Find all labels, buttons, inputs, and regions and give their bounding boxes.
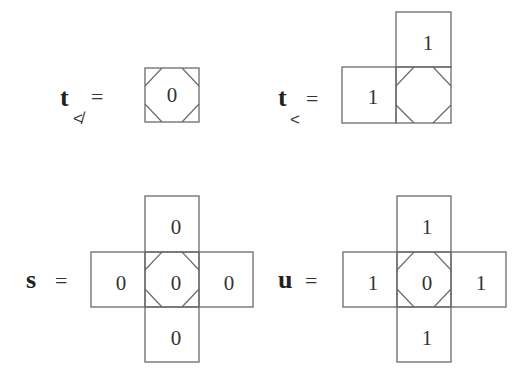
cell-left: 1 bbox=[343, 252, 397, 307]
label-u: u bbox=[278, 265, 292, 294]
cell-top: 1 bbox=[397, 196, 451, 252]
cell-value: 0 bbox=[171, 215, 182, 239]
tile-diagram: t ≮ = 0 t < = 1 1 bbox=[0, 0, 528, 391]
label-t: t bbox=[278, 83, 287, 112]
cell-value: 0 bbox=[422, 271, 433, 295]
cell-right: 0 bbox=[199, 252, 253, 307]
equals-sign: = bbox=[305, 268, 317, 293]
cell-left: 1 bbox=[342, 67, 396, 123]
cell-center-octagon: 0 bbox=[145, 252, 199, 307]
subscript-not-less: ≮ bbox=[73, 109, 86, 128]
cell-bottom: 1 bbox=[397, 307, 451, 362]
label-t: t bbox=[60, 83, 69, 112]
cell-value: 0 bbox=[116, 271, 127, 295]
figure-s: s = 0 0 0 0 0 bbox=[26, 196, 253, 362]
cell-right: 1 bbox=[451, 252, 506, 307]
cell-value: 1 bbox=[423, 31, 434, 55]
cell-value: 0 bbox=[171, 326, 182, 350]
cell-top: 1 bbox=[396, 12, 451, 67]
figure-u: u = 1 1 0 1 1 bbox=[278, 196, 506, 362]
equals-sign: = bbox=[306, 86, 318, 111]
cell-bottom: 0 bbox=[145, 307, 199, 362]
cell-value: 1 bbox=[422, 215, 433, 239]
figure-t-less: t < = 1 1 bbox=[278, 12, 451, 129]
cell-value: 1 bbox=[476, 271, 487, 295]
cell-left: 0 bbox=[91, 252, 145, 307]
figure-t-not-less: t ≮ = 0 bbox=[60, 68, 199, 128]
cell-value: 0 bbox=[224, 271, 235, 295]
equals-sign: = bbox=[91, 84, 103, 109]
subscript-less: < bbox=[290, 110, 300, 129]
cell-center-octagon: 0 bbox=[397, 252, 451, 307]
cell-center-octagon: 0 bbox=[145, 68, 199, 122]
cell-value: 0 bbox=[167, 83, 178, 107]
cell-top: 0 bbox=[145, 196, 199, 252]
cell-value: 0 bbox=[171, 271, 182, 295]
cell-value: 1 bbox=[368, 85, 379, 109]
equals-sign: = bbox=[55, 268, 67, 293]
cell-value: 1 bbox=[422, 326, 433, 350]
cell-value: 1 bbox=[368, 271, 379, 295]
cell-center-octagon bbox=[396, 67, 451, 123]
label-s: s bbox=[26, 265, 36, 294]
